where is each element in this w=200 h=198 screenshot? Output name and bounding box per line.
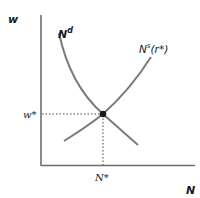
- demand-curve-label: Nd: [58, 26, 73, 41]
- demand-label-sup: d: [67, 26, 73, 35]
- labor-market-diagram: w N Nd Ns(r*) w* N*: [0, 0, 200, 198]
- equilibrium-point: [100, 111, 107, 118]
- supply-label-main: N: [139, 43, 147, 55]
- n-star-label: N*: [94, 172, 109, 183]
- demand-label-main: N: [58, 28, 67, 41]
- supply-label-suffix: (r*): [151, 43, 169, 55]
- supply-curve-label: Ns(r*): [139, 42, 168, 55]
- x-axis-label: N: [186, 184, 195, 197]
- w-star-label: w*: [23, 109, 37, 120]
- labor-supply-curve: [64, 57, 151, 141]
- y-axis-label: w: [8, 13, 19, 26]
